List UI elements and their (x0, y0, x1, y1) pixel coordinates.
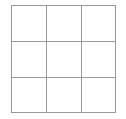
grid-svg (0, 0, 126, 119)
grid-cell-r1-c1[interactable] (46, 41, 81, 77)
grid-cell-r2-c0[interactable] (11, 77, 46, 113)
grid-diagram-canvas (0, 0, 126, 119)
grid-cell-r1-c0[interactable] (11, 41, 46, 77)
grid-cell-r0-c1[interactable] (46, 5, 81, 41)
grid-cell-r2-c1[interactable] (46, 77, 81, 113)
grid-cell-r0-c0[interactable] (11, 5, 46, 41)
grid-cells (11, 5, 116, 113)
grid-cell-r0-c2[interactable] (81, 5, 116, 41)
grid-cell-r2-c2[interactable] (81, 77, 116, 113)
grid-cell-r1-c2[interactable] (81, 41, 116, 77)
